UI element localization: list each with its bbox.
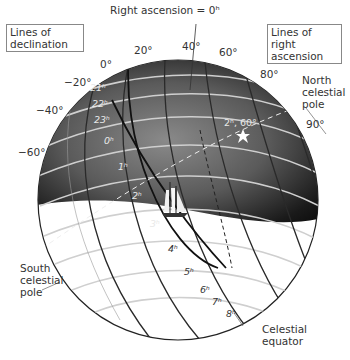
right-ascension-zero-label: Right ascension = 0ʰ [110, 4, 220, 16]
ra-6h-label: 6ʰ [200, 284, 210, 296]
right-ascension-legend-box: Lines of right ascension [267, 24, 342, 64]
declination-20-label: 20° [134, 44, 153, 56]
ra-2h-label: 2ʰ [132, 190, 142, 202]
ra-23h-label: 23ʰ [94, 114, 110, 126]
south-pole-line2: celestial [20, 274, 63, 286]
declination-minus20-label: −20° [64, 76, 91, 88]
equator-line1: Celestial [262, 323, 307, 335]
ra-3h-label: 3ʰ [150, 218, 160, 230]
ra-22h-label: 22ʰ [92, 98, 108, 110]
north-pole-line3: pole [302, 98, 345, 110]
star-coordinate-label: 2ʰ, 60° [224, 117, 257, 129]
ra-21h-label: 21ʰ [90, 82, 106, 94]
declination-90-label: 90° [306, 118, 325, 130]
declination-60-label: 60° [219, 46, 238, 58]
ra-5h-label: 5ʰ [184, 266, 194, 278]
declination-legend-label: Lines of declination [10, 26, 68, 50]
ra-7h-label: 7ʰ [212, 296, 222, 308]
declination-80-label: 80° [260, 68, 279, 80]
ra-0h-label: 0ʰ [104, 135, 114, 147]
ra-1h-label: 1ʰ [118, 161, 128, 173]
declination-minus60-label: −60° [18, 146, 45, 158]
declination-0-label: 0° [100, 58, 112, 70]
south-celestial-pole-label: South celestial pole [20, 262, 63, 298]
ra-8h-label: 8ʰ [226, 308, 236, 320]
ra-legend-line2: ascension [271, 50, 338, 62]
north-pole-line2: celestial [302, 86, 345, 98]
ra-legend-line1: Lines of right [271, 26, 338, 50]
north-pole-line1: North [302, 74, 345, 86]
declination-legend-box: Lines of declination [6, 24, 84, 52]
south-pole-line3: pole [20, 286, 63, 298]
south-pole-line1: South [20, 262, 63, 274]
north-celestial-pole-label: North celestial pole [302, 74, 345, 110]
ra-4h-label: 4ʰ [168, 243, 178, 255]
declination-minus40-label: −40° [36, 104, 63, 116]
celestial-sphere-diagram: Lines of declination Lines of right asce… [0, 0, 350, 360]
declination-40-label: 40° [182, 40, 201, 52]
celestial-equator-label: Celestial equator [262, 323, 307, 347]
equator-line2: equator [262, 335, 307, 347]
